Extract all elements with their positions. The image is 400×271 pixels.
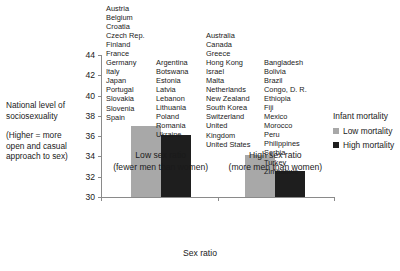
legend-title: Infant mortality xyxy=(333,111,394,121)
country-label: Romania xyxy=(156,121,188,130)
y-axis-note-line1: (Higher = more xyxy=(6,130,90,141)
country-column-low-sexratio-high-mortality: ArgentinaBotswanaEstoniaLatviaLebanonLit… xyxy=(156,58,188,139)
x-tick-mark xyxy=(218,197,219,201)
country-label: Australia xyxy=(206,31,250,40)
country-label: Congo, D. R. xyxy=(264,85,307,94)
country-label: Peru xyxy=(264,130,307,139)
country-label: Lithuania xyxy=(156,103,188,112)
y-tick-mark xyxy=(98,96,102,97)
y-tick-label: 42 xyxy=(85,71,95,80)
y-tick-label: 40 xyxy=(85,91,95,100)
country-label: Czech Rep. xyxy=(106,31,145,40)
country-label: Ethiopia xyxy=(264,94,307,103)
country-label: Belgium xyxy=(106,13,145,22)
y-tick-label: 36 xyxy=(85,132,95,141)
country-column-high-sexratio-high-mortality: BangladeshBoliviaBrazilCongo, D. R.Ethio… xyxy=(264,58,307,176)
y-tick-mark xyxy=(98,55,102,56)
legend-swatch-low-mortality-icon xyxy=(333,128,339,134)
x-tick-mark xyxy=(334,197,335,201)
y-tick-mark xyxy=(98,177,102,178)
country-label: Slovenia xyxy=(106,104,145,113)
y-axis-note-line2: open and casual xyxy=(6,141,90,152)
country-label: Austria xyxy=(106,4,145,13)
y-axis-title-line1: National level of xyxy=(6,100,90,111)
country-column-high-sexratio-low-mortality: AustraliaCanadaGreeceHong KongIsraelMalt… xyxy=(206,31,250,149)
country-label: New Zealand xyxy=(206,94,250,103)
country-label: Brazil xyxy=(264,76,307,85)
country-label: Kingdom xyxy=(206,131,250,140)
country-label: Ukraine xyxy=(156,130,188,139)
y-axis-title-line2: sociosexuality xyxy=(6,111,90,122)
country-label: Israel xyxy=(206,67,250,76)
country-label: Canada xyxy=(206,40,250,49)
country-label: Turkey xyxy=(264,158,307,167)
country-label: United States xyxy=(206,140,250,149)
country-label: Lebanon xyxy=(156,94,188,103)
country-label: Spain xyxy=(106,113,145,122)
country-label: Portugal xyxy=(106,85,145,94)
chart-canvas: National level of sociosexuality (Higher… xyxy=(0,0,400,271)
country-label: Germany xyxy=(106,58,145,67)
country-label: Finland xyxy=(106,40,145,49)
country-label: Latvia xyxy=(156,85,188,94)
country-label: Bolivia xyxy=(264,67,307,76)
country-label: Malta xyxy=(206,76,250,85)
country-label: Morocco xyxy=(264,121,307,130)
country-label: Argentina xyxy=(156,58,188,67)
country-label: Philippines xyxy=(264,139,307,148)
country-label: Mexico xyxy=(264,112,307,121)
country-label: Italy xyxy=(106,67,145,76)
y-axis-title: National level of sociosexuality (Higher… xyxy=(6,100,90,162)
country-label: Bangladesh xyxy=(264,58,307,67)
legend-item-high-mortality[interactable]: High mortality xyxy=(333,140,394,150)
country-column-low-sexratio-low-mortality: AustriaBelgiumCroatiaCzech Rep.FinlandFr… xyxy=(106,4,145,122)
country-label: Botswana xyxy=(156,67,188,76)
country-label: Greece xyxy=(206,49,250,58)
country-label: Netherlands xyxy=(206,85,250,94)
country-label: United xyxy=(206,121,250,130)
country-label: Poland xyxy=(156,112,188,121)
country-label: Hong Kong xyxy=(206,58,250,67)
legend-swatch-high-mortality-icon xyxy=(333,142,339,148)
y-tick-label: 32 xyxy=(85,172,95,181)
country-label: Japan xyxy=(106,76,145,85)
country-label: Estonia xyxy=(156,76,188,85)
legend: Infant mortality Low mortality High mort… xyxy=(333,111,394,154)
x-axis-title: Sex ratio xyxy=(0,248,400,258)
country-label: France xyxy=(106,49,145,58)
y-tick-label: 30 xyxy=(85,193,95,202)
country-label: Zimbabwe xyxy=(264,167,307,176)
country-label: Switzerland xyxy=(206,112,250,121)
country-label: South Korea xyxy=(206,103,250,112)
country-label: Croatia xyxy=(106,22,145,31)
y-tick-mark xyxy=(98,75,102,76)
y-tick-mark xyxy=(98,136,102,137)
country-label: Fiji xyxy=(264,103,307,112)
legend-label-low-mortality: Low mortality xyxy=(343,126,392,136)
y-axis-note-line3: approach to sex) xyxy=(6,151,90,162)
y-tick-label: 44 xyxy=(85,51,95,60)
legend-label-high-mortality: High mortality xyxy=(343,140,394,150)
y-tick-mark xyxy=(98,116,102,117)
legend-item-low-mortality[interactable]: Low mortality xyxy=(333,126,394,136)
y-tick-label: 38 xyxy=(85,112,95,121)
y-axis-line xyxy=(101,55,102,197)
x-tick-mark xyxy=(101,197,102,201)
country-label: Serbia xyxy=(264,148,307,157)
country-label: Slovakia xyxy=(106,94,145,103)
